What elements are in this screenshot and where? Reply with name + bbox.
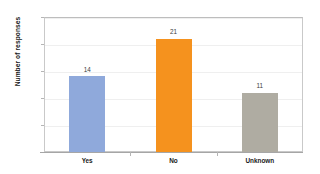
bar-value-label: 21	[144, 29, 204, 35]
x-axis-tick-label: Yes	[47, 158, 127, 164]
bar-group: 14	[69, 17, 105, 152]
bar-chart: Number of responses 0510152025 142111 Ye…	[0, 0, 320, 174]
bar	[242, 93, 278, 152]
bar	[69, 76, 105, 152]
bar-value-label: 14	[57, 67, 117, 73]
x-axis-tick-mark	[217, 152, 218, 156]
bar	[156, 39, 192, 152]
x-axis-tick-mark	[130, 152, 131, 156]
bar-value-label: 11	[230, 83, 290, 89]
bar-group: 11	[242, 17, 278, 152]
x-axis-tick-label: No	[134, 158, 214, 164]
x-axis-line	[40, 152, 303, 153]
bars-layer: 142111	[44, 17, 303, 152]
bar-group: 21	[156, 17, 192, 152]
y-axis-title: Number of responses	[14, 0, 21, 107]
x-axis-tick-label: Unknown	[220, 158, 300, 164]
